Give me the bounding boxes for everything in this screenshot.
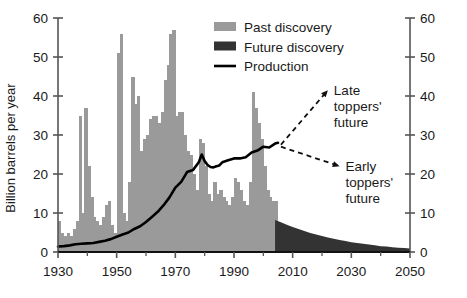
bar-past-discovery (81, 213, 84, 252)
bar-past-discovery (252, 92, 255, 252)
bar-past-discovery (222, 197, 225, 252)
bar-past-discovery (131, 77, 134, 253)
bar-past-discovery (167, 65, 170, 252)
x-axis-tick-label: 2010 (278, 264, 308, 279)
y-axis-right-tick-label: 60 (420, 11, 435, 26)
bar-past-discovery (73, 229, 76, 252)
bar-past-discovery (140, 151, 143, 252)
bar-past-discovery (260, 139, 263, 252)
y-axis-left-tick-label: 20 (33, 167, 48, 182)
bar-past-discovery (158, 123, 161, 252)
bar-past-discovery (240, 190, 243, 252)
x-axis-tick-label: 1990 (219, 264, 249, 279)
bar-past-discovery (125, 221, 128, 252)
bar-past-discovery (257, 123, 260, 252)
bar-past-discovery (120, 34, 123, 252)
late-toppers-future-text-line: toppers' (334, 99, 382, 114)
bar-past-discovery (76, 221, 79, 252)
legend-swatch-past-discovery (214, 22, 236, 31)
bar-past-discovery (234, 178, 237, 252)
y-axis-left-tick-label: 10 (33, 206, 48, 221)
x-axis-tick-label: 2050 (395, 264, 425, 279)
legend-label-production: Production (244, 59, 309, 74)
bar-past-discovery (193, 174, 196, 252)
bar-past-discovery (184, 135, 187, 252)
y-axis-right-tick-label: 30 (420, 128, 435, 143)
bar-past-discovery (237, 182, 240, 252)
bar-past-discovery (169, 34, 172, 252)
y-axis-left-tick-label: 50 (33, 50, 48, 65)
bar-past-discovery (67, 233, 70, 253)
bar-past-discovery (272, 201, 275, 252)
bar-past-discovery (64, 236, 67, 252)
legend-swatch-future-discovery (214, 42, 236, 51)
y-axis-left-title: Billion barrels per year (3, 83, 18, 213)
early-toppers-future-text-line: Early (346, 159, 377, 174)
bar-past-discovery (143, 139, 146, 252)
y-axis-right-tick-label: 10 (420, 206, 435, 221)
bar-past-discovery (228, 205, 231, 252)
y-axis-left-tick-label: 30 (33, 128, 48, 143)
x-axis-tick-label: 1930 (43, 264, 73, 279)
bar-past-discovery (61, 233, 64, 253)
late-toppers-future-text-line: future (334, 115, 369, 130)
y-axis-right-tick-label: 40 (420, 89, 435, 104)
early-toppers-future-text-line: toppers' (346, 175, 394, 190)
bar-past-discovery (243, 201, 246, 252)
bar-past-discovery (146, 135, 149, 252)
bar-past-discovery (211, 201, 214, 252)
y-axis-right-tick-label: 0 (420, 245, 428, 260)
bar-past-discovery (87, 166, 90, 252)
legend-label-past-discovery: Past discovery (244, 20, 332, 35)
bar-past-discovery (161, 112, 164, 252)
x-axis-tick-label: 1970 (160, 264, 190, 279)
bar-past-discovery (128, 182, 131, 252)
x-axis-tick-label: 1950 (102, 264, 132, 279)
y-axis-left-tick-label: 60 (33, 11, 48, 26)
bar-past-discovery (96, 221, 99, 252)
bar-past-discovery (213, 182, 216, 252)
bar-past-discovery (255, 108, 258, 252)
bar-past-discovery (196, 190, 199, 252)
y-axis-right-tick-label: 20 (420, 167, 435, 182)
bar-past-discovery (79, 116, 82, 253)
bar-past-discovery (105, 205, 108, 252)
y-axis-left-tick-label: 0 (40, 245, 48, 260)
bar-past-discovery (231, 197, 234, 252)
bar-past-discovery (249, 182, 252, 252)
bar-past-discovery (205, 166, 208, 252)
bar-past-discovery (99, 225, 102, 252)
bar-past-discovery (102, 217, 105, 252)
bar-past-discovery (266, 190, 269, 252)
bar-past-discovery (155, 116, 158, 253)
bar-past-discovery (114, 233, 117, 253)
bar-past-discovery (117, 53, 120, 252)
oil-discovery-production-chart: 0102030405060 0102030405060 193019501970… (0, 0, 467, 298)
early-toppers-future-text-line: future (346, 191, 381, 206)
bar-past-discovery (269, 197, 272, 252)
bar-past-discovery (84, 108, 87, 252)
bar-past-discovery (149, 119, 152, 252)
late-toppers-future-text-line: Late (334, 83, 360, 98)
bar-past-discovery (108, 201, 111, 252)
bar-past-discovery (225, 201, 228, 252)
bar-past-discovery (246, 205, 249, 252)
chart-container: 0102030405060 0102030405060 193019501970… (0, 0, 467, 298)
y-axis-right-tick-label: 50 (420, 50, 435, 65)
bar-past-discovery (263, 166, 266, 252)
bar-past-discovery (216, 194, 219, 253)
x-axis-tick-label: 2030 (336, 264, 366, 279)
bar-past-discovery (164, 80, 167, 252)
y-axis-left-tick-label: 40 (33, 89, 48, 104)
bar-past-discovery (219, 190, 222, 252)
bar-past-discovery (152, 116, 155, 253)
bar-past-discovery (93, 217, 96, 252)
legend-label-future-discovery: Future discovery (244, 40, 344, 55)
bar-past-discovery (172, 30, 175, 252)
bar-past-discovery (208, 194, 211, 253)
bar-past-discovery (187, 151, 190, 252)
